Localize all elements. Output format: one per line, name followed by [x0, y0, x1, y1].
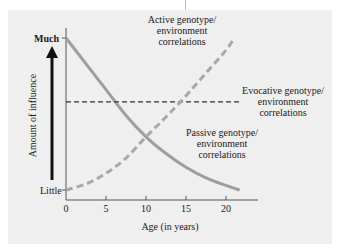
x-tick-10: 10	[136, 203, 156, 214]
x-tick-20: 20	[216, 203, 236, 214]
passive-label-line: Passive genotype/	[172, 127, 272, 138]
active-label-line: Active genotype/	[122, 14, 242, 25]
evocative-label: Evocative genotype/ environment correlat…	[228, 85, 338, 118]
passive-label: Passive genotype/ environment correlatio…	[172, 127, 272, 160]
passive-label-line: correlations	[172, 149, 272, 160]
active-label: Active genotype/ environment correlation…	[122, 14, 242, 47]
y-tick-little: Little	[40, 185, 62, 196]
active-label-line: environment	[122, 25, 242, 36]
y-tick-much: Much	[34, 33, 59, 44]
y-axis-label: Amount of influence	[27, 66, 38, 166]
x-tick-5: 5	[96, 203, 116, 214]
evocative-label-line: Evocative genotype/	[228, 85, 338, 96]
evocative-label-line: environment	[228, 96, 338, 107]
passive-line	[66, 38, 240, 190]
arrow-head-icon	[46, 46, 58, 58]
x-tick-0: 0	[56, 203, 76, 214]
x-ticks	[106, 196, 226, 200]
x-axis-label: Age (in years)	[120, 221, 220, 232]
evocative-label-line: correlations	[228, 107, 338, 118]
passive-label-line: environment	[172, 138, 272, 149]
x-tick-15: 15	[176, 203, 196, 214]
active-label-line: correlations	[122, 36, 242, 47]
active-line	[66, 38, 234, 190]
